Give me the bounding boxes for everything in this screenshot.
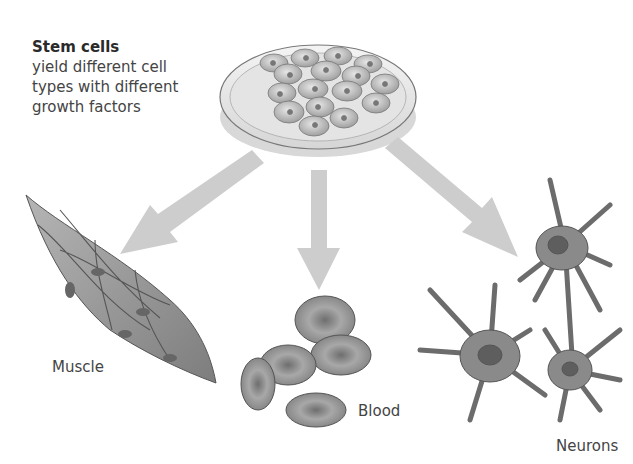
petri-dish: [220, 45, 416, 157]
muscle-cells: [26, 195, 216, 383]
arrow-to-blood: [297, 170, 340, 290]
caption-line: growth factors: [32, 97, 178, 117]
arrow-to-muscle: [120, 150, 264, 254]
caption-title: Stem cells: [32, 37, 178, 57]
caption-line: yield different cell: [32, 57, 178, 77]
caption-line: types with different: [32, 77, 178, 97]
label-blood: Blood: [358, 402, 400, 420]
label-neurons: Neurons: [556, 437, 618, 455]
arrows: [120, 137, 518, 290]
blood-cells: [241, 296, 371, 427]
neurons: [420, 180, 620, 420]
label-muscle: Muscle: [52, 358, 104, 376]
caption: Stem cells yield different cell types wi…: [32, 37, 178, 117]
arrow-to-neurons: [385, 137, 518, 257]
